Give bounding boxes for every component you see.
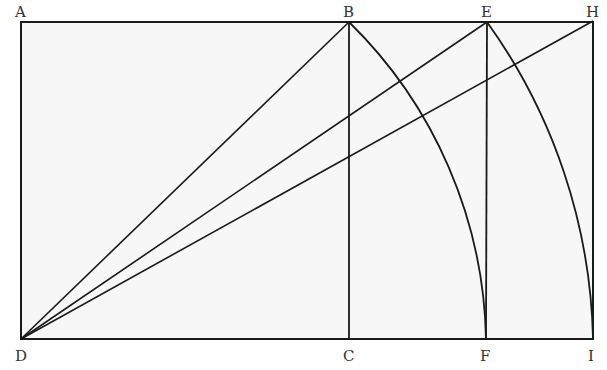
diagram-canvas: A B E H D C F I [0, 0, 607, 370]
label-e: E [481, 3, 492, 21]
label-f: F [480, 347, 490, 365]
label-c: C [343, 347, 354, 365]
label-i: I [588, 347, 594, 365]
label-a: A [14, 3, 26, 21]
label-d: D [15, 347, 27, 365]
label-h: H [586, 3, 599, 21]
label-b: B [343, 3, 354, 21]
segment-ef [486, 22, 487, 339]
